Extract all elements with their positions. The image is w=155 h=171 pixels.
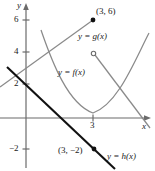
- y-tick-label-neg2: −2: [9, 144, 19, 153]
- y-axis-label: y: [17, 1, 21, 10]
- curve-label-g: y = g(x): [78, 32, 107, 41]
- point-marker-3-neg2: [92, 147, 97, 152]
- x-axis-label: x: [142, 122, 146, 131]
- x-axis: [0, 115, 151, 122]
- curve-label-h: y = h(x): [107, 152, 136, 161]
- point-marker-open-3-3point5: [91, 51, 95, 55]
- y-tick-label-4: 4: [14, 47, 19, 56]
- graph-figure: y x 6 4 2 −2 3 (3, 6) y = g(x) y = f(x) …: [0, 0, 155, 171]
- y-tick-label-2: 2: [14, 79, 19, 88]
- annotation-point-3-6: (3, 6): [96, 7, 116, 16]
- x-tick-label-3: 3: [90, 121, 95, 130]
- curve-g-branch: [95, 55, 150, 128]
- curve-label-f: y = f(x): [58, 68, 85, 77]
- annotation-point-3-neg2: (3, −2): [58, 146, 83, 155]
- y-tick-label-6: 6: [14, 15, 19, 24]
- point-marker-3-6: [91, 18, 96, 23]
